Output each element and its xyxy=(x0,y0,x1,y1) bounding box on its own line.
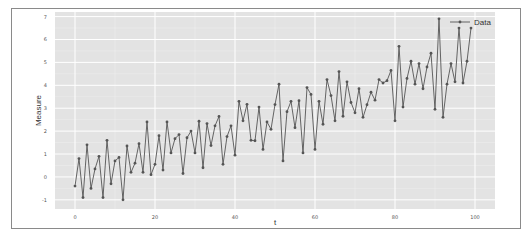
data-point xyxy=(130,171,133,174)
data-point xyxy=(226,135,229,138)
data-point xyxy=(154,163,157,166)
data-point xyxy=(374,99,377,102)
y-tick-label: 3 xyxy=(44,105,47,111)
data-point xyxy=(398,45,401,48)
y-tick-label: 0 xyxy=(44,174,47,180)
data-point xyxy=(274,103,277,106)
data-point xyxy=(122,198,125,201)
data-point xyxy=(190,130,193,133)
data-point xyxy=(462,82,465,85)
data-point xyxy=(166,121,169,124)
data-point xyxy=(78,157,81,160)
x-tick-label: 100 xyxy=(470,214,480,220)
x-tick-label: 60 xyxy=(312,214,318,220)
data-point xyxy=(162,169,165,172)
data-point xyxy=(102,196,105,199)
data-point xyxy=(434,108,437,111)
data-point xyxy=(470,27,473,30)
data-point xyxy=(290,100,293,103)
data-point xyxy=(422,87,425,90)
data-point xyxy=(250,139,253,142)
data-point xyxy=(410,60,413,63)
y-tick-label: 6 xyxy=(44,36,47,42)
data-point xyxy=(282,159,285,162)
data-point xyxy=(326,78,329,81)
data-point xyxy=(322,123,325,126)
data-point xyxy=(366,103,369,106)
y-tick-label: 7 xyxy=(44,14,47,20)
data-point xyxy=(146,121,149,124)
y-tick-label: 4 xyxy=(44,82,47,88)
data-point xyxy=(330,94,333,97)
data-point xyxy=(98,155,101,158)
data-point xyxy=(174,137,177,140)
data-point xyxy=(214,124,217,127)
data-point xyxy=(218,115,221,118)
data-point xyxy=(178,133,181,136)
x-tick-label: 80 xyxy=(392,214,398,220)
x-tick-label: 20 xyxy=(152,214,158,220)
data-point xyxy=(426,66,429,69)
data-point xyxy=(378,78,381,81)
data-point xyxy=(262,148,265,151)
data-point xyxy=(310,93,313,96)
data-point xyxy=(418,62,421,65)
data-point xyxy=(74,185,77,188)
data-point xyxy=(302,151,305,154)
data-point xyxy=(210,144,213,147)
x-tick-label: 40 xyxy=(232,214,238,220)
data-point xyxy=(278,83,281,86)
data-point xyxy=(334,119,337,122)
x-axis-ticks: 020406080100 xyxy=(73,214,479,220)
data-point xyxy=(82,196,85,199)
data-point xyxy=(390,69,393,72)
data-point xyxy=(150,173,153,176)
y-axis-label: Measure xyxy=(34,94,43,126)
data-point xyxy=(230,124,233,127)
data-point xyxy=(454,80,457,83)
data-point xyxy=(266,121,269,124)
data-point xyxy=(114,159,117,162)
data-point xyxy=(358,87,361,90)
y-tick-label: 2 xyxy=(44,128,47,134)
data-point xyxy=(194,151,197,154)
data-point xyxy=(394,119,397,122)
data-point xyxy=(90,187,93,190)
data-point xyxy=(86,143,89,146)
data-point xyxy=(118,156,121,159)
data-point xyxy=(338,70,341,73)
y-tick-label: -1 xyxy=(42,197,47,203)
data-point xyxy=(182,172,185,175)
data-point xyxy=(222,163,225,166)
data-point xyxy=(134,162,137,165)
line-chart: -101234567 020406080100 t Measure Data xyxy=(0,0,528,240)
y-tick-label: 1 xyxy=(44,151,47,157)
data-point xyxy=(442,116,445,119)
data-point xyxy=(370,91,373,94)
data-point xyxy=(414,83,417,86)
x-axis-label: t xyxy=(274,218,277,227)
data-point xyxy=(94,168,97,171)
data-point xyxy=(294,126,297,129)
data-point xyxy=(318,100,321,103)
data-point xyxy=(234,154,237,157)
data-point xyxy=(286,110,289,113)
data-point xyxy=(402,106,405,109)
data-point xyxy=(246,103,249,106)
legend-label: Data xyxy=(474,18,491,27)
data-point xyxy=(258,106,261,109)
data-point xyxy=(362,116,365,119)
y-tick-label: 5 xyxy=(44,59,47,65)
data-point xyxy=(158,134,161,137)
data-point xyxy=(438,17,441,20)
legend-marker-icon xyxy=(459,21,462,24)
data-point xyxy=(346,80,349,83)
data-point xyxy=(202,166,205,169)
data-point xyxy=(314,148,317,151)
data-point xyxy=(206,122,209,125)
data-point xyxy=(386,79,389,82)
data-point xyxy=(110,182,113,185)
data-point xyxy=(270,128,273,131)
data-point xyxy=(350,101,353,104)
x-tick-label: 0 xyxy=(73,214,76,220)
